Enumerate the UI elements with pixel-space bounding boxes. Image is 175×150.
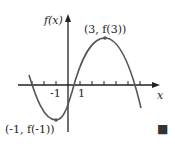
tick-label-one: 1 xyxy=(78,88,85,99)
max-point-label: (3, f(3)) xyxy=(84,24,126,35)
x-axis-arrow-icon xyxy=(152,82,160,88)
max-point xyxy=(103,36,107,40)
tick-label-neg-one: -1 xyxy=(50,88,61,99)
end-marker-icon: ■ xyxy=(157,123,168,135)
y-axis-arrow-icon xyxy=(65,14,71,22)
min-point xyxy=(54,118,58,122)
min-point-label: (-1, f(-1)) xyxy=(5,124,55,135)
y-axis-label: f(x) xyxy=(44,15,63,26)
x-axis-label: x xyxy=(157,90,163,101)
cubic-curve xyxy=(29,38,141,120)
